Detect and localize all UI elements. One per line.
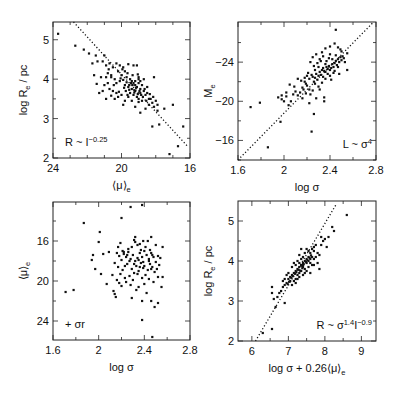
data-point (150, 300, 152, 302)
data-point (293, 262, 295, 264)
data-point (280, 290, 282, 292)
data-point (324, 238, 326, 240)
data-point (135, 289, 137, 291)
data-point (131, 246, 133, 248)
data-point (102, 90, 104, 92)
data-point (151, 125, 153, 127)
data-point (126, 72, 128, 74)
data-point (297, 78, 299, 80)
data-point (300, 265, 302, 267)
data-point (282, 286, 284, 288)
data-point (125, 281, 127, 283)
data-point (126, 263, 128, 265)
data-point (138, 270, 140, 272)
data-point (153, 76, 155, 78)
data-point (144, 88, 146, 90)
data-point (135, 87, 137, 89)
data-point (182, 125, 184, 127)
data-point (106, 283, 108, 285)
data-point (122, 269, 124, 271)
data-point (132, 64, 134, 66)
data-point (334, 42, 336, 44)
data-point (93, 74, 95, 76)
data-point (131, 80, 133, 82)
data-point (141, 277, 143, 279)
data-point (132, 74, 134, 76)
data-point (132, 82, 134, 84)
data-point (314, 83, 316, 85)
data-point (312, 76, 314, 78)
data-point (304, 268, 306, 270)
data-point (139, 252, 141, 254)
y-tick-label: 24 (37, 315, 49, 327)
data-point (329, 75, 331, 77)
y-tick-label: 2 (43, 152, 49, 164)
data-point (148, 98, 150, 100)
data-point (302, 88, 304, 90)
data-point (157, 302, 159, 304)
data-point (139, 243, 141, 245)
data-point (288, 104, 290, 106)
x-tick-label: 2.8 (182, 344, 197, 356)
y-tick-label: 3 (43, 113, 49, 125)
data-point (311, 131, 313, 133)
y-tick-label: −24 (215, 56, 234, 68)
data-point (153, 106, 155, 108)
data-point (115, 62, 117, 64)
data-point (338, 61, 340, 63)
data-point (278, 292, 280, 294)
data-point (325, 60, 327, 62)
y-tick-label: 4 (43, 73, 49, 85)
data-point (295, 264, 297, 266)
data-point (309, 61, 311, 63)
data-point (127, 96, 129, 98)
data-point (125, 90, 127, 92)
data-point (293, 280, 295, 282)
data-point (304, 81, 306, 83)
data-point (337, 58, 339, 60)
data-point (114, 293, 116, 295)
data-point (298, 272, 300, 274)
data-point (271, 292, 273, 294)
data-point (317, 66, 319, 68)
data-point (120, 259, 122, 261)
data-point (346, 214, 348, 216)
data-point (147, 240, 149, 242)
data-point (131, 268, 133, 270)
data-point (168, 153, 170, 155)
data-point (308, 78, 310, 80)
data-point (142, 267, 144, 269)
x-tick-label: 2 (96, 344, 102, 356)
y-tick-label: 2 (228, 335, 234, 347)
data-point (146, 292, 148, 294)
data-point (328, 57, 330, 59)
data-point (114, 98, 116, 100)
data-point (283, 100, 285, 102)
data-point (149, 93, 151, 95)
data-point (324, 63, 326, 65)
data-point (304, 252, 306, 254)
data-point (157, 255, 159, 257)
data-point (332, 72, 334, 74)
data-point (130, 206, 132, 208)
data-point (310, 254, 312, 256)
data-point (313, 246, 315, 248)
data-point (259, 102, 261, 104)
data-point (128, 89, 130, 91)
data-point (338, 73, 340, 75)
data-point (320, 244, 322, 246)
y-tick-label: −20 (215, 95, 234, 107)
data-point (123, 251, 125, 253)
data-point (331, 226, 333, 228)
data-point (139, 112, 141, 114)
data-point (319, 88, 321, 90)
data-point (301, 267, 303, 269)
data-point (320, 236, 322, 238)
data-point (143, 250, 145, 252)
data-point (312, 56, 314, 58)
data-point (138, 259, 140, 261)
data-point (144, 274, 146, 276)
data-point (284, 278, 286, 280)
data-point (322, 240, 324, 242)
y-tick-label: 5 (43, 34, 49, 46)
